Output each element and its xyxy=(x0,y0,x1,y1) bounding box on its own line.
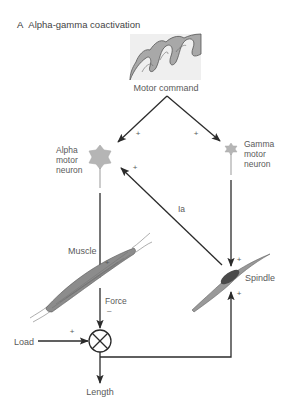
summing-junction-icon xyxy=(89,330,111,352)
spindle-label: Spindle xyxy=(245,273,275,283)
muscle-label: Muscle xyxy=(68,246,97,256)
diagram-canvas: Motor command + + Alpha motor neuron Gam… xyxy=(0,0,292,405)
alpha-label: Alpha motor neuron xyxy=(56,145,83,175)
force-label: Force xyxy=(105,296,127,306)
ia-afferent-arrow xyxy=(121,168,222,265)
sign-alpha-muscle: + xyxy=(105,258,110,267)
sign-cmd-gamma: + xyxy=(194,129,199,138)
sign-cmd-alpha: + xyxy=(136,129,141,138)
sign-gamma-spindle: + xyxy=(237,255,242,264)
sign-load: + xyxy=(70,327,75,336)
load-label: Load xyxy=(14,337,34,347)
sign-ia-alpha: + xyxy=(133,163,138,172)
alpha-motor-neuron-icon xyxy=(89,145,111,188)
ia-label: Ia xyxy=(178,204,185,214)
length-label: Length xyxy=(86,387,114,397)
sign-length-spindle: + xyxy=(237,289,242,298)
sign-force: – xyxy=(107,306,112,315)
gamma-motor-neuron-icon xyxy=(225,143,237,175)
cortex-icon xyxy=(130,34,201,80)
motor-command-label: Motor command xyxy=(133,83,198,93)
gamma-label: Gamma motor neuron xyxy=(244,139,277,169)
command-to-alpha-arrow xyxy=(118,96,167,142)
